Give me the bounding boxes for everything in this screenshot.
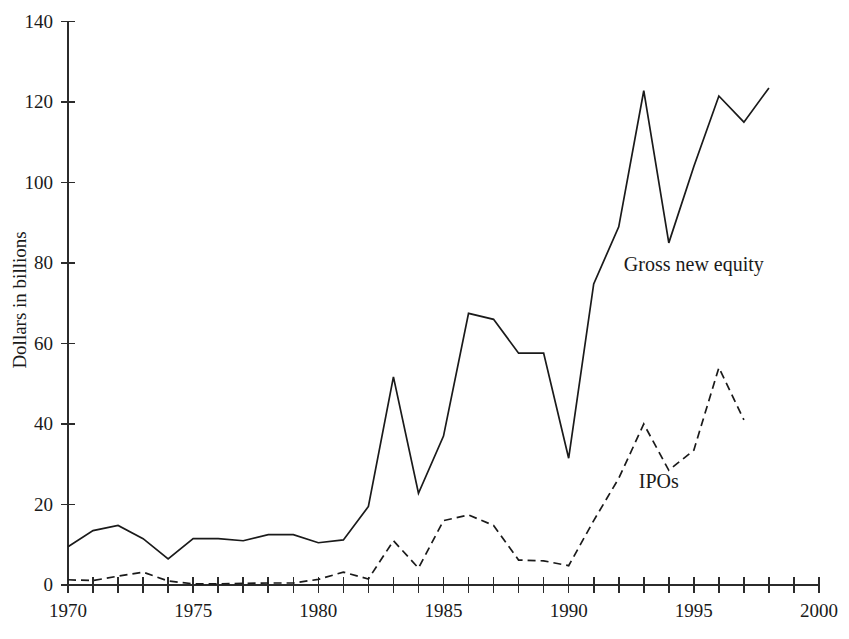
y-tick-label: 100 <box>25 172 54 193</box>
x-tick-label: 1970 <box>49 600 87 621</box>
x-tick-label: 1980 <box>299 600 337 621</box>
y-tick-label: 60 <box>34 333 53 354</box>
y-tick-label: 20 <box>34 494 53 515</box>
y-tick-label: 80 <box>34 252 53 273</box>
chart-page: 020406080100120140 197019751980198519901… <box>0 0 849 639</box>
y-tick-label: 40 <box>34 413 53 434</box>
tick-marks <box>61 22 819 594</box>
series-annotations: Gross new equityIPOs <box>624 253 764 492</box>
x-tick-label: 1990 <box>550 600 588 621</box>
series-label-ipos: IPOs <box>639 470 679 492</box>
x-tick-label: 1985 <box>425 600 463 621</box>
x-tick-label: 1995 <box>675 600 713 621</box>
y-axis-title: Dollars in billions <box>9 231 30 368</box>
y-tick-label: 120 <box>25 91 54 112</box>
y-tick-label: 0 <box>44 574 54 595</box>
line-chart: 020406080100120140 197019751980198519901… <box>0 0 849 639</box>
y-tick-label: 140 <box>25 11 54 32</box>
axes <box>68 22 819 586</box>
x-tick-labels: 1970197519801985199019952000 <box>49 600 838 621</box>
series-label-gross-new-equity: Gross new equity <box>624 253 764 276</box>
x-tick-label: 1975 <box>174 600 212 621</box>
x-tick-label: 2000 <box>800 600 838 621</box>
data-series <box>68 88 769 584</box>
